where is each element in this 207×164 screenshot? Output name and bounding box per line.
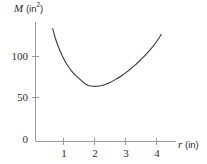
y-axis-unit-close: ) bbox=[40, 3, 43, 14]
x-axis-unit: (in) bbox=[185, 139, 199, 150]
y-tick-label-100: 100 bbox=[0, 51, 28, 62]
y-axis-variable: M bbox=[14, 2, 23, 14]
x-axis-label: r (in) bbox=[178, 139, 199, 150]
x-tick-label-4: 4 bbox=[150, 148, 164, 159]
data-curve bbox=[53, 28, 161, 86]
graph-figure: M (in2) r (in) 100 50 0 1 2 3 4 bbox=[0, 0, 207, 164]
y-tick-label-50: 50 bbox=[0, 92, 28, 103]
plot-area bbox=[0, 0, 207, 164]
y-tick-label-0: 0 bbox=[0, 134, 28, 145]
y-axis-label: M (in2) bbox=[14, 2, 43, 14]
x-tick-label-3: 3 bbox=[119, 148, 133, 159]
x-tick-label-1: 1 bbox=[57, 148, 71, 159]
y-axis-unit-open: (in bbox=[26, 3, 37, 14]
x-tick-label-2: 2 bbox=[88, 148, 102, 159]
